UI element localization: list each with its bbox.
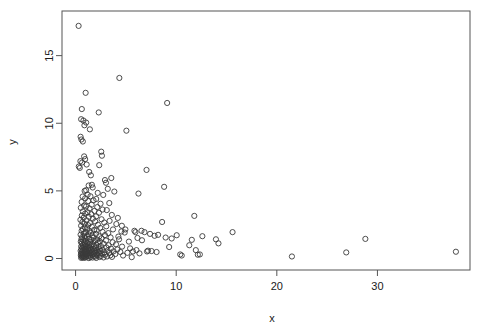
x-tick-label: 10 [170, 280, 182, 292]
plot-canvas: 0102030 051015 x y [0, 0, 483, 333]
y-tick-label: 10 [43, 117, 55, 129]
y-tick-label: 0 [43, 255, 55, 261]
x-tick-label: 0 [73, 280, 79, 292]
scatter-plot-figure: 0102030 051015 x y [0, 0, 483, 333]
y-tick-label: 5 [43, 188, 55, 194]
y-axis-title: y [6, 139, 18, 145]
y-tick-label: 15 [43, 50, 55, 62]
x-axis-title: x [269, 312, 275, 324]
x-tick-label: 20 [271, 280, 283, 292]
x-tick-label: 30 [371, 280, 383, 292]
